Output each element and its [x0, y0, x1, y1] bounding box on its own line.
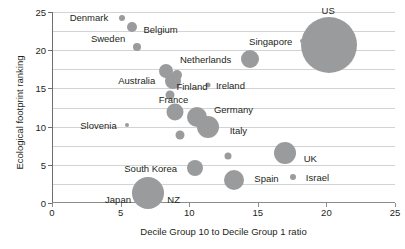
- bubble-france: [167, 104, 184, 121]
- bubble-denmark: [119, 15, 125, 21]
- bubble-japan: [132, 177, 164, 209]
- bubble-us: [301, 17, 357, 73]
- point-label-germany: Germany: [214, 104, 253, 115]
- bubble-netherlands: [241, 50, 259, 68]
- x-tick-label: 20: [321, 207, 332, 218]
- y-tick-mark: [48, 127, 52, 128]
- y-tick-label: 5: [41, 159, 46, 170]
- y-axis-title: Ecological footprint ranking: [14, 38, 25, 188]
- point-label-south-korea: South Korea: [124, 162, 177, 173]
- bubble-slovenia: [125, 123, 129, 127]
- x-tick-label: 25: [390, 207, 401, 218]
- bubble-germany: [187, 107, 207, 127]
- bubble-belgium: [127, 22, 137, 32]
- point-label-denmark: Denmark: [70, 12, 109, 23]
- gridline: [52, 69, 395, 70]
- gridline: [52, 146, 395, 147]
- bubble-nz: [155, 196, 161, 202]
- x-tick-label: 10: [184, 207, 195, 218]
- y-axis-tick-labels: 0510152025: [26, 12, 46, 203]
- point-label-japan: Japan: [105, 194, 131, 205]
- y-tick-mark: [48, 50, 52, 51]
- point-label-nz: NZ: [167, 194, 180, 205]
- bubble-sweden: [133, 43, 141, 51]
- bubble: [172, 70, 182, 80]
- bubble-singapore: [300, 39, 304, 43]
- plot-area: DenmarkBelgiumSwedenSingaporeUSNetherlan…: [52, 12, 395, 203]
- bubble: [175, 131, 184, 140]
- y-tick-label: 15: [35, 83, 46, 94]
- x-axis-line: [52, 202, 395, 203]
- x-tick-label: 5: [118, 207, 123, 218]
- gridline: [52, 165, 395, 166]
- point-label-australia: Australia: [118, 74, 155, 85]
- y-tick-mark: [48, 88, 52, 89]
- y-tick-mark: [48, 165, 52, 166]
- y-tick-label: 0: [41, 198, 46, 209]
- y-tick-label: 10: [35, 121, 46, 132]
- point-label-uk: UK: [304, 153, 317, 164]
- y-tick-label: 20: [35, 45, 46, 56]
- bubble-uk: [274, 142, 296, 164]
- bubble-south-korea: [187, 160, 203, 176]
- point-label-israel: Israel: [306, 172, 329, 183]
- point-label-belgium: Belgium: [143, 24, 177, 35]
- bubble-chart: DenmarkBelgiumSwedenSingaporeUSNetherlan…: [0, 0, 405, 249]
- bubble: [224, 153, 231, 160]
- bubble: [159, 64, 173, 78]
- y-axis-line: [52, 12, 53, 203]
- gridline: [52, 184, 395, 185]
- point-label-singapore: Singapore: [249, 36, 292, 47]
- x-tick-label: 15: [253, 207, 264, 218]
- point-label-spain: Spain: [254, 173, 278, 184]
- point-label-finland: Finland: [176, 80, 207, 91]
- point-label-slovenia: Slovenia: [80, 120, 116, 131]
- point-label-france: France: [159, 94, 189, 105]
- bubble-spain: [224, 170, 244, 190]
- bubble-israel: [290, 174, 296, 180]
- y-tick-label: 25: [35, 7, 46, 18]
- point-label-ireland: Ireland: [216, 80, 245, 91]
- x-axis-tick-labels: 0510152025: [52, 207, 395, 221]
- point-label-netherlands: Netherlands: [180, 53, 231, 64]
- point-label-sweden: Sweden: [91, 33, 125, 44]
- point-label-us: US: [322, 4, 335, 15]
- y-tick-mark: [48, 12, 52, 13]
- x-axis-title: Decile Group 10 to Decile Group 1 ratio: [52, 226, 395, 237]
- point-label-italy: Italy: [230, 124, 247, 135]
- x-tick-label: 0: [49, 207, 54, 218]
